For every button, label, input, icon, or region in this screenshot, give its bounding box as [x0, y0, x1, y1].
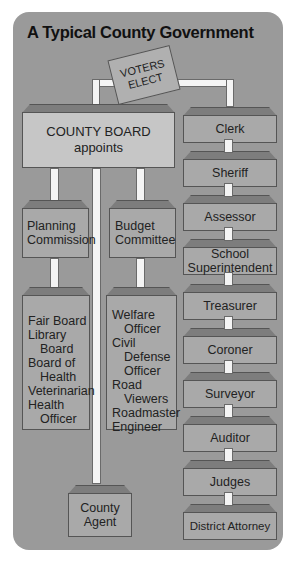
elected-office-label: Surveyor — [184, 387, 276, 401]
elected-office-box: Clerk — [183, 107, 277, 143]
elected-connector — [224, 227, 233, 241]
elected-office-label: Treasurer — [184, 299, 276, 313]
voters-connector-left — [92, 79, 100, 107]
elected-office-label: Sheriff — [184, 166, 276, 180]
budget-committee-box: Budget Committee — [109, 200, 176, 258]
elected-office-box: Auditor — [183, 416, 277, 452]
elected-connector — [224, 183, 233, 197]
elected-office-box: Treasurer — [183, 284, 277, 320]
elected-office-label: School — [184, 247, 276, 261]
sub-item: Officer — [112, 364, 176, 378]
voters-connector-right — [226, 79, 234, 107]
sub-item: Civil — [112, 336, 176, 350]
county-agent-box: County Agent — [68, 485, 132, 537]
elected-connector — [224, 139, 233, 153]
budget-line2: Committee — [115, 233, 175, 247]
elected-office-box: Assessor — [183, 195, 277, 231]
sub-item: Officer — [28, 412, 89, 426]
elected-office-box: Surveyor — [183, 372, 277, 408]
elected-connector — [224, 448, 233, 462]
elected-office-label: Clerk — [184, 122, 276, 136]
budget-line1: Budget — [115, 219, 175, 233]
sub-item: Welfare — [112, 308, 176, 322]
elected-office-label: Assessor — [184, 210, 276, 224]
sub-item: Fair Board — [28, 314, 89, 328]
planning-line1: Planning — [27, 219, 88, 233]
sub-item: Veterinarian — [28, 384, 89, 398]
sub-item: Board of — [28, 356, 89, 370]
elected-connector — [224, 492, 233, 506]
county-board-label: COUNTY BOARD — [23, 124, 174, 140]
elected-office-box: Sheriff — [183, 151, 277, 187]
elected-connector — [224, 272, 233, 286]
elected-office-box: Judges — [183, 460, 277, 496]
sub-item: Officer — [112, 322, 176, 336]
elected-connector — [224, 316, 233, 330]
sub-item: Library — [28, 328, 89, 342]
sub-item: Health — [28, 370, 89, 384]
sub-item: Defense — [112, 350, 176, 364]
county-board-sublabel: appoints — [23, 140, 174, 156]
elected-office-label: Auditor — [184, 431, 276, 445]
sub-item: Engineer — [112, 420, 176, 434]
elected-office-label: Coroner — [184, 343, 276, 357]
sub-item: Viewers — [112, 392, 176, 406]
sub-item: Road — [112, 378, 176, 392]
budget-sub-box: Welfare Officer Civil Defense Officer Ro… — [106, 287, 177, 430]
sub-item: Health — [28, 398, 89, 412]
elected-office-box: Coroner — [183, 328, 277, 364]
agent-connector — [92, 168, 101, 484]
elected-office-label: Judges — [184, 475, 276, 489]
elected-connector — [224, 404, 233, 418]
elected-office-box: SchoolSuperintendent — [183, 239, 277, 275]
diagram-title: A Typical County Government — [27, 23, 254, 42]
elected-office-box: District Attorney — [183, 504, 277, 540]
sub-item: Board — [28, 342, 89, 356]
agent-line1: County — [69, 501, 131, 515]
elected-office-label: District Attorney — [184, 519, 276, 533]
agent-line2: Agent — [69, 515, 131, 529]
planning-sub-box: Fair Board Library Board Board of Health… — [22, 287, 90, 430]
sub-item: Roadmaster — [112, 406, 176, 420]
planning-commission-box: Planning Commission — [22, 200, 89, 258]
county-board-box: COUNTY BOARD appoints — [22, 104, 175, 168]
elected-connector — [224, 360, 233, 374]
planning-line2: Commission — [27, 233, 88, 247]
